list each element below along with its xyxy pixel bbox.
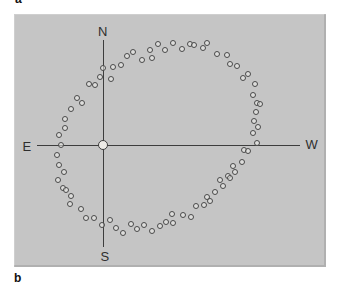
data-point: [155, 41, 161, 47]
data-point: [252, 81, 258, 87]
data-point: [191, 42, 197, 48]
data-point: [188, 214, 194, 220]
west-label: W: [306, 138, 319, 151]
data-point: [214, 51, 220, 57]
data-point: [227, 61, 233, 67]
data-point: [220, 183, 226, 189]
figure-stage: a N S E W b: [0, 0, 340, 288]
data-point: [68, 106, 74, 112]
data-point: [92, 82, 98, 88]
data-point: [62, 116, 68, 122]
data-point: [253, 109, 259, 115]
data-point: [179, 46, 185, 52]
data-point: [180, 212, 186, 218]
data-point: [63, 187, 69, 193]
data-point: [61, 169, 67, 175]
data-point: [240, 75, 246, 81]
data-point: [234, 63, 240, 69]
data-point: [245, 148, 251, 154]
data-point: [149, 228, 155, 234]
data-point: [56, 162, 62, 168]
data-point: [224, 52, 230, 58]
data-point: [200, 45, 206, 51]
data-point: [232, 169, 238, 175]
data-point: [128, 221, 134, 227]
panel-label-b: b: [14, 272, 21, 284]
data-point: [157, 223, 163, 229]
data-point: [107, 217, 113, 223]
data-point: [250, 92, 256, 98]
data-point: [227, 175, 233, 181]
data-point: [108, 76, 114, 82]
data-point: [149, 55, 155, 61]
data-point: [250, 130, 256, 136]
north-label: N: [98, 25, 108, 38]
data-point: [124, 53, 130, 59]
data-point: [141, 222, 147, 228]
data-point: [239, 159, 245, 165]
data-point: [251, 118, 257, 124]
data-point: [207, 198, 213, 204]
data-point: [169, 211, 175, 217]
data-point: [120, 230, 126, 236]
data-point: [67, 201, 73, 207]
data-point: [170, 220, 176, 226]
data-point: [68, 193, 74, 199]
data-point: [201, 202, 207, 208]
data-point: [110, 64, 116, 70]
data-point: [58, 142, 64, 148]
data-point: [193, 203, 199, 209]
data-point: [254, 140, 260, 146]
data-point: [99, 222, 105, 228]
data-point: [170, 40, 176, 46]
data-point: [54, 152, 60, 158]
data-point: [162, 47, 168, 53]
data-point: [255, 124, 261, 130]
data-point: [163, 219, 169, 225]
panel-label-a: a: [15, 0, 22, 5]
center-release-point-circle: [98, 140, 108, 150]
data-point: [91, 215, 97, 221]
data-point: [118, 62, 124, 68]
data-point: [139, 57, 145, 63]
south-label: S: [100, 250, 109, 263]
data-point: [56, 132, 62, 138]
data-point: [130, 49, 136, 55]
data-point: [212, 189, 218, 195]
data-point: [147, 47, 153, 53]
data-point: [100, 65, 106, 71]
data-point: [62, 125, 68, 131]
east-label: E: [22, 140, 31, 153]
data-point: [97, 74, 103, 80]
data-point: [83, 215, 89, 221]
data-point: [113, 225, 119, 231]
data-point: [55, 177, 61, 183]
data-point: [79, 100, 85, 106]
data-point: [86, 81, 92, 87]
orientation-diagram-panel: [14, 14, 326, 267]
data-point: [257, 101, 263, 107]
data-point: [78, 206, 84, 212]
east-west-axis-line: [37, 145, 300, 146]
data-point: [134, 226, 140, 232]
data-point: [204, 40, 210, 46]
data-point: [245, 71, 251, 77]
